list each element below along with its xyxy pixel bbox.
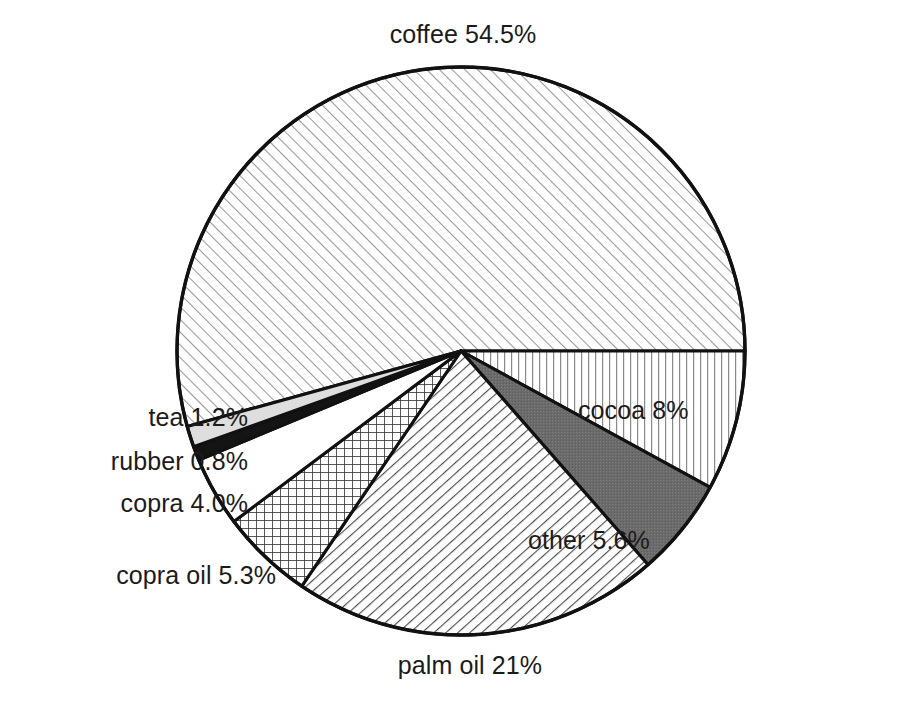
- pie-chart-figure: coffee 54.5% cocoa 8% other 5.6% palm oi…: [0, 0, 898, 709]
- slice-label-copra: copra 4.0%: [28, 491, 248, 516]
- slice-label-coffee: coffee 54.5%: [333, 22, 593, 47]
- slice-label-tea: tea 1.2%: [28, 405, 248, 430]
- slice-label-cocoa: cocoa 8%: [578, 398, 758, 423]
- slice-label-palm-oil: palm oil 21%: [340, 653, 600, 678]
- pie-chart-svg: [0, 0, 898, 709]
- slice-label-other: other 5.6%: [528, 528, 758, 553]
- slice-label-copra-oil: copra oil 5.3%: [46, 563, 276, 588]
- slice-label-rubber: rubber 0.8%: [8, 449, 248, 474]
